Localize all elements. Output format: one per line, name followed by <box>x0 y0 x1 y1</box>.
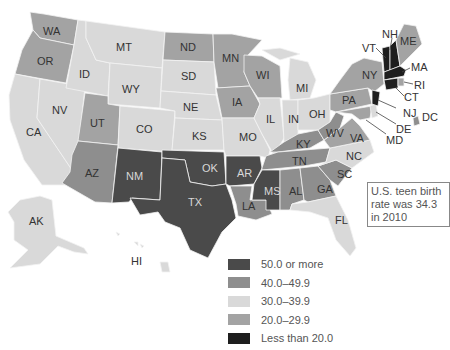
state-ri[interactable] <box>398 78 404 86</box>
swatch-under-20 <box>228 333 250 344</box>
label-md: MD <box>386 134 403 146</box>
label-ct: CT <box>404 91 419 103</box>
label-va: VA <box>350 132 365 144</box>
label-id: ID <box>79 68 90 80</box>
label-vt: VT <box>362 42 376 54</box>
label-ks: KS <box>192 130 207 142</box>
label-nd: ND <box>180 41 196 53</box>
label-ar: AR <box>237 167 252 179</box>
label-sd: SD <box>181 70 196 82</box>
annotation-box: U.S. teen birth rate was 34.3 in 2010 <box>367 182 450 227</box>
label-ny: NY <box>362 69 378 81</box>
label-mt: MT <box>116 41 132 53</box>
label-ok: OK <box>202 162 219 174</box>
label-wi: WI <box>256 69 269 81</box>
legend-label: 30.0–39.9 <box>261 295 310 307</box>
label-nv: NV <box>52 104 68 116</box>
state-nj[interactable] <box>372 90 380 106</box>
label-pa: PA <box>342 94 357 106</box>
legend-label: Less than 20.0 <box>261 332 333 344</box>
label-sc: SC <box>337 168 352 180</box>
swatch-50-plus <box>228 259 250 270</box>
label-wy: WY <box>122 83 140 95</box>
label-ut: UT <box>90 117 105 129</box>
state-ak[interactable] <box>8 196 88 268</box>
state-fl[interactable] <box>290 196 356 256</box>
label-mn: MN <box>222 52 239 64</box>
legend-label: 50.0 or more <box>261 258 323 270</box>
label-ky: KY <box>296 138 311 150</box>
label-ms: MS <box>264 185 281 197</box>
label-ga: GA <box>317 183 334 195</box>
label-tn: TN <box>292 155 307 167</box>
label-me: ME <box>400 35 417 47</box>
label-nj: NJ <box>403 107 416 119</box>
legend-item: 40.0–49.9 <box>228 274 333 293</box>
label-in: IN <box>288 113 299 125</box>
label-co: CO <box>136 123 153 135</box>
label-nm: NM <box>126 170 143 182</box>
legend: 50.0 or more 40.0–49.9 30.0–39.9 20.0–29… <box>228 255 333 348</box>
label-dc: DC <box>422 111 438 123</box>
legend-item: 50.0 or more <box>228 255 333 274</box>
label-hi: HI <box>131 255 142 267</box>
label-ak: AK <box>29 215 44 227</box>
label-wv: WV <box>326 127 344 139</box>
label-wa: WA <box>43 25 61 37</box>
label-il: IL <box>266 113 275 125</box>
label-ne: NE <box>183 101 198 113</box>
label-ia: IA <box>232 96 243 108</box>
label-nh: NH <box>382 28 398 40</box>
label-tx: TX <box>188 196 203 208</box>
label-oh: OH <box>309 108 326 120</box>
swatch-20-29 <box>228 314 250 325</box>
legend-label: 40.0–49.9 <box>261 277 310 289</box>
state-de[interactable] <box>370 104 378 118</box>
label-fl: FL <box>335 214 348 226</box>
label-ma: MA <box>411 61 428 73</box>
state-hi[interactable] <box>116 232 170 272</box>
label-or: OR <box>37 55 54 67</box>
label-nc: NC <box>346 150 362 162</box>
legend-item: Less than 20.0 <box>228 329 333 348</box>
swatch-40-49 <box>228 277 250 288</box>
legend-label: 20.0–29.9 <box>261 314 310 326</box>
label-la: LA <box>242 200 256 212</box>
legend-item: 30.0–39.9 <box>228 292 333 311</box>
label-mi: MI <box>296 82 308 94</box>
legend-item: 20.0–29.9 <box>228 311 333 330</box>
state-mi-up[interactable] <box>262 48 300 60</box>
state-vt[interactable] <box>382 46 390 72</box>
label-mo: MO <box>239 131 257 143</box>
label-ri: RI <box>414 79 425 91</box>
label-az: AZ <box>85 167 99 179</box>
swatch-30-39 <box>228 296 250 307</box>
label-al: AL <box>289 185 302 197</box>
label-ca: CA <box>26 126 42 138</box>
